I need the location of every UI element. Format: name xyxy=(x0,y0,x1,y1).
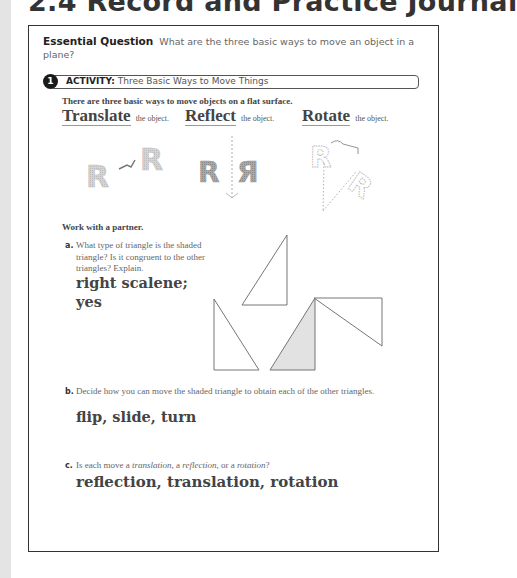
translate-figure: R R xyxy=(86,142,163,194)
triangle-right xyxy=(314,298,382,346)
answer-c: reflection, translation, rotation xyxy=(76,473,338,492)
letter-r-translated: R xyxy=(140,142,163,177)
question-letter: a. xyxy=(65,240,73,252)
answer-a-line2: yes xyxy=(76,292,102,311)
letter-r-original: R xyxy=(198,156,220,189)
triangle-top xyxy=(242,235,287,305)
question-text-pre: Is each move a xyxy=(76,460,132,470)
question-a: a. What type of triangle is the shaded t… xyxy=(76,240,216,275)
question-text-mid: , or a xyxy=(216,460,237,470)
letter-r-original: R xyxy=(310,141,332,174)
triangle-diagram xyxy=(214,235,382,370)
term-translation: translation xyxy=(132,460,172,470)
question-b: b. Decide how you can move the shaded tr… xyxy=(76,386,376,398)
question-letter: c. xyxy=(65,460,73,472)
triangle-shaded xyxy=(270,298,315,370)
translate-arrow-icon xyxy=(119,160,135,169)
rotate-figure: R R xyxy=(310,141,379,211)
question-text: Decide how you can move the shaded trian… xyxy=(76,386,374,396)
rotate-arrow-icon xyxy=(331,141,358,154)
work-heading: Work with a partner. xyxy=(62,222,143,232)
answer-a-line1: right scalene; xyxy=(76,273,188,292)
letter-r-mirrored: Я xyxy=(237,156,259,189)
question-text-post: ? xyxy=(266,460,270,470)
term-reflection: reflection xyxy=(182,460,216,470)
letter-r-rotated: R xyxy=(342,166,379,205)
question-text-mid: , a xyxy=(172,460,183,470)
question-letter: b. xyxy=(65,386,74,398)
question-text: What type of triangle is the shaded tria… xyxy=(76,240,205,273)
question-c: c. Is each move a translation, a reflect… xyxy=(76,460,416,472)
answer-b: flip, slide, turn xyxy=(76,407,196,426)
reflect-figure: R Я xyxy=(198,136,259,200)
letter-r-original: R xyxy=(86,159,109,194)
term-rotation: rotation xyxy=(237,460,266,470)
triangle-left xyxy=(214,299,259,370)
